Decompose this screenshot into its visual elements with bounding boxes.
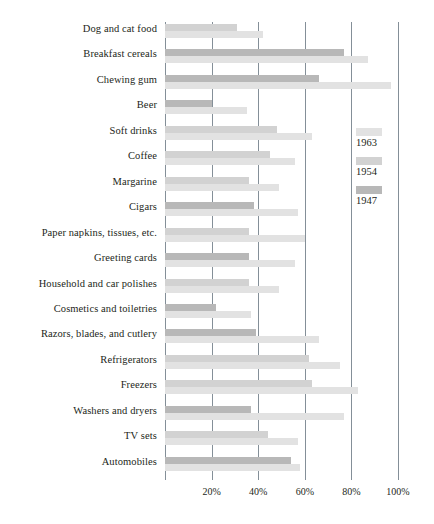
category-label: Greeting cards [94, 252, 157, 263]
chart-legend: 196319541947 [356, 128, 402, 215]
legend-item-1947[interactable]: 1947 [356, 186, 402, 206]
bar-1963 [165, 311, 251, 318]
x-tick-label-40: 40% [249, 486, 267, 497]
bar-1947 [165, 406, 251, 413]
bar-1954 [165, 380, 312, 387]
bar-1954 [165, 279, 249, 286]
bar-1947 [165, 329, 256, 336]
legend-item-1954[interactable]: 1954 [356, 157, 402, 177]
bar-1947 [165, 75, 319, 82]
bar-1963 [165, 438, 298, 445]
x-tick-label-100: 100% [386, 486, 409, 497]
category-label: Breakfast cereals [83, 48, 157, 59]
legend-label: 1954 [356, 166, 402, 177]
gridline-60pct [305, 22, 306, 480]
bar-1947 [165, 100, 212, 107]
bar-1963 [165, 260, 295, 267]
category-label: Chewing gum [97, 74, 157, 85]
bar-1963 [165, 56, 368, 63]
category-label: Soft drinks [110, 125, 157, 136]
category-label: Dog and cat food [83, 23, 157, 34]
gridline-100pct [398, 22, 399, 480]
category-label: Paper napkins, tissues, etc. [42, 227, 157, 238]
bar-1963 [165, 31, 263, 38]
bar-1963 [165, 184, 279, 191]
bar-1954 [165, 126, 277, 133]
bar-1947 [165, 49, 344, 56]
category-label: Margarine [113, 176, 157, 187]
grouped-bar-chart: Dog and cat foodBreakfast cerealsChewing… [0, 0, 434, 524]
bar-1963 [165, 464, 300, 471]
bar-1963 [165, 107, 247, 114]
bar-1963 [165, 133, 312, 140]
bar-1947 [165, 457, 291, 464]
category-label: Washers and dryers [73, 405, 157, 416]
bar-1954 [165, 431, 268, 438]
bar-1963 [165, 82, 391, 89]
bar-1954 [165, 177, 249, 184]
bar-1963 [165, 362, 340, 369]
category-label: Automobiles [102, 456, 157, 467]
bar-1954 [165, 151, 270, 158]
category-label: Razors, blades, and cutlery [41, 328, 157, 339]
bar-1947 [165, 202, 254, 209]
bar-1963 [165, 209, 298, 216]
bar-1954 [165, 228, 249, 235]
legend-item-1963[interactable]: 1963 [356, 128, 402, 148]
legend-swatch-icon [356, 186, 382, 194]
gridline-80pct [351, 22, 352, 480]
x-tick-label-80: 80% [342, 486, 360, 497]
bar-1947 [165, 304, 216, 311]
category-label-column: Dog and cat foodBreakfast cerealsChewing… [0, 22, 160, 480]
bar-1963 [165, 336, 319, 343]
bar-1963 [165, 413, 344, 420]
category-label: Beer [137, 99, 157, 110]
category-label: Freezers [121, 379, 157, 390]
category-label: Household and car polishes [39, 278, 157, 289]
category-label: Refrigerators [100, 354, 157, 365]
bar-1947 [165, 253, 249, 260]
category-label: Cigars [129, 201, 157, 212]
gridline-40pct [258, 22, 259, 480]
bar-1963 [165, 286, 279, 293]
bar-1963 [165, 158, 295, 165]
x-tick-label-60: 60% [296, 486, 314, 497]
category-label: Cosmetics and toiletries [54, 303, 157, 314]
bar-1954 [165, 355, 309, 362]
legend-swatch-icon [356, 157, 382, 165]
bar-1963 [165, 235, 305, 242]
bar-1963 [165, 387, 358, 394]
legend-label: 1947 [356, 195, 402, 206]
plot-area [165, 22, 398, 480]
category-label: TV sets [124, 430, 157, 441]
x-tick-label-20: 20% [202, 486, 220, 497]
bar-1954 [165, 24, 237, 31]
category-label: Coffee [128, 150, 157, 161]
legend-swatch-icon [356, 128, 382, 136]
legend-label: 1963 [356, 137, 402, 148]
